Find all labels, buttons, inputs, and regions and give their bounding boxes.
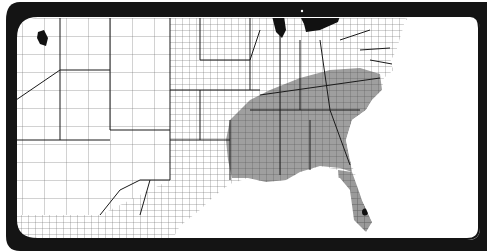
us-county-map [0, 0, 487, 251]
frame-dot [301, 10, 303, 12]
map-frame [0, 0, 487, 251]
